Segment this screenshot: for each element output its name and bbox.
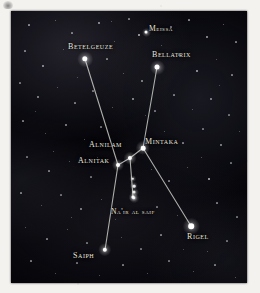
star-labels-layer: MeissaBetelgeuzeBellatrixMintakaAlnilamA… <box>11 11 247 283</box>
star-label-bellatrix: Bellatrix <box>152 51 191 59</box>
star-chart-plate: MeissaBetelgeuzeBellatrixMintakaAlnilamA… <box>0 0 260 293</box>
star-label-mintaka: Mintaka <box>145 138 178 146</box>
star-label-nair-al-saif: Na'ir al saif <box>111 208 155 216</box>
scan-corner-smudge <box>3 1 13 9</box>
star-label-meissa: Meissa <box>149 25 173 33</box>
star-label-betelgeuze: Betelgeuze <box>68 43 113 51</box>
sky-panel: MeissaBetelgeuzeBellatrixMintakaAlnilamA… <box>11 11 247 283</box>
star-label-alnitak: Alnitak <box>78 157 109 165</box>
star-label-alnilam: Alnilam <box>89 141 122 149</box>
star-label-saiph: Saiph <box>73 252 94 260</box>
star-label-rigel: Rigel <box>187 233 209 241</box>
